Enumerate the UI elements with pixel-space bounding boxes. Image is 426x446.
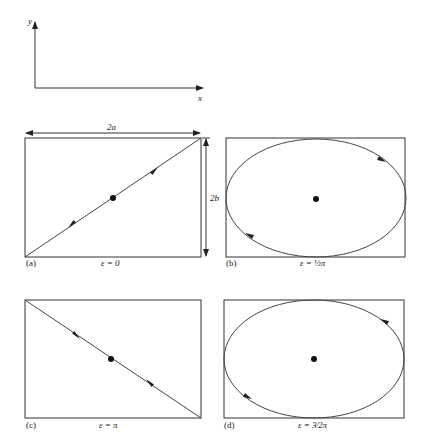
center-dot <box>110 195 116 201</box>
arrow-icon <box>150 167 158 175</box>
arrow-icon <box>380 319 389 325</box>
center-dot <box>313 196 319 202</box>
panel-id: (d) <box>224 420 235 430</box>
center-dot <box>311 356 317 362</box>
panel-id: (a) <box>26 258 36 268</box>
panel-a: 2a 2b (a) ε = 0 <box>25 122 220 268</box>
polarization-diagram: y x 2a 2b (a) ε = 0 (b) ε = ½π <box>0 0 426 446</box>
panel-c: (c) ε = π <box>25 300 201 430</box>
coordinate-axes: y x <box>27 16 203 103</box>
x-axis-label: x <box>197 93 202 103</box>
arrow-icon <box>68 220 76 228</box>
y-axis-label: y <box>27 16 32 26</box>
arrow-icon <box>377 156 386 162</box>
width-label: 2a <box>107 122 117 132</box>
epsilon-label: ε = 3⁄2π <box>298 420 328 430</box>
height-label: 2b <box>210 193 220 203</box>
epsilon-label: ε = 0 <box>101 258 120 268</box>
center-dot <box>108 356 114 362</box>
panel-id: (b) <box>226 258 237 268</box>
arrow-icon <box>243 393 252 399</box>
panel-id: (c) <box>26 420 36 430</box>
epsilon-label: ε = ½π <box>300 258 326 268</box>
panel-b: (b) ε = ½π <box>226 138 406 268</box>
panel-d: (d) ε = 3⁄2π <box>224 300 404 430</box>
epsilon-label: ε = π <box>99 420 118 430</box>
